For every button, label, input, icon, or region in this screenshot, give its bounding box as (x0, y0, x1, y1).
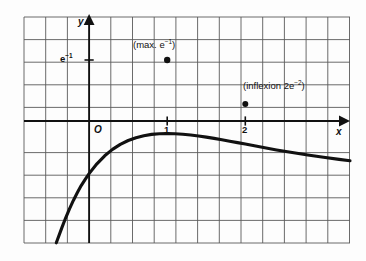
maximum-annotation-exponent: −1 (165, 38, 172, 45)
y-axis-label: y (78, 17, 84, 27)
graph-figure: y x O 1 2 e−1 (max. e−1) (inflexion 2e−2… (0, 0, 366, 261)
maximum-annotation: (max. e−1) (133, 40, 175, 50)
x-axis-label: x (336, 127, 342, 137)
maximum-point-marker (164, 57, 170, 63)
y-tick-exponent: −1 (65, 52, 72, 59)
inflexion-annotation-exponent: −2 (294, 79, 301, 86)
x-tick-label-2: 2 (242, 125, 247, 135)
maximum-annotation-suffix: ) (172, 39, 175, 50)
inflexion-point-marker (242, 101, 248, 107)
maximum-annotation-prefix: (max. e (133, 39, 165, 50)
x-tick-label-1: 1 (164, 125, 169, 135)
inflexion-annotation: (inflexion 2e−2) (243, 81, 305, 91)
y-tick-label-e-inverse: e−1 (60, 54, 73, 64)
origin-label: O (94, 125, 102, 135)
inflexion-annotation-suffix: ) (302, 80, 305, 91)
plot-canvas (0, 0, 366, 261)
inflexion-annotation-prefix: (inflexion 2e (243, 80, 294, 91)
